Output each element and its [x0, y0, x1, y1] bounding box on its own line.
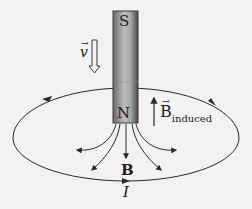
- field-line-left-outer: [77, 124, 116, 150]
- current-label: I: [123, 185, 129, 200]
- field-line-right-outer: [136, 124, 176, 150]
- velocity-label: → v: [80, 45, 88, 59]
- induced-field-subscript: induced: [172, 113, 212, 124]
- north-pole-label: N: [117, 106, 130, 121]
- field-line-right-inner: [132, 124, 161, 170]
- induction-diagram: S N → v → Binduced B I: [0, 0, 252, 209]
- vector-mark-icon: →: [162, 97, 170, 106]
- vector-mark-icon: →: [81, 39, 89, 48]
- induced-field-label: → Binduced: [160, 104, 212, 120]
- velocity-arrow-icon: [89, 40, 100, 73]
- south-pole-label: S: [119, 14, 129, 29]
- magnet-field-label: B: [121, 163, 134, 178]
